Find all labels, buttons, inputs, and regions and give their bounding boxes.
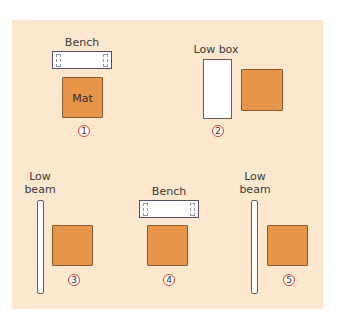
bench-leg: [103, 54, 108, 67]
station-number-badge: 5: [283, 274, 295, 286]
station-number-badge: 3: [68, 274, 80, 286]
mat: Mat: [62, 77, 103, 118]
mat-label: Mat: [63, 91, 102, 104]
equipment-label: Low box: [186, 43, 246, 56]
station-number-badge: 2: [212, 125, 224, 137]
bench-equipment: [52, 51, 112, 69]
low-box-equipment: [203, 59, 232, 119]
station-number-badge: 1: [78, 125, 90, 137]
station-number-badge: 4: [163, 274, 175, 286]
equipment-label: Low beam: [20, 170, 60, 196]
low-beam-equipment: [37, 200, 44, 294]
mat: [241, 69, 283, 111]
mat: [147, 225, 188, 266]
bench-equipment: [139, 200, 199, 218]
mat: [52, 225, 93, 266]
low-beam-equipment: [251, 200, 258, 294]
mat: [267, 225, 308, 266]
bench-leg: [190, 203, 195, 216]
equipment-label: Low beam: [235, 170, 275, 196]
bench-leg: [56, 54, 61, 67]
equipment-label: Bench: [139, 185, 199, 198]
equipment-label: Bench: [52, 36, 112, 49]
bench-leg: [143, 203, 148, 216]
